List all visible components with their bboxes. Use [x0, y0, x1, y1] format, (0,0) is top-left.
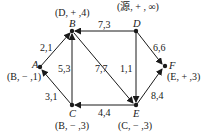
node-f-dot: [163, 64, 167, 68]
node-e-dot: [134, 103, 138, 107]
edge-weight-c-b: 5,3: [58, 64, 71, 74]
node-a-label: (B, − ,1): [7, 72, 41, 82]
node-f-label: (E, + ,3): [167, 72, 200, 82]
node-c-name: C: [69, 109, 76, 120]
edge-weight-d-e: 1,1: [120, 64, 133, 74]
node-a-name: A: [32, 60, 38, 71]
node-d-label: (源, + , ∞): [117, 2, 159, 12]
edge-weight-e-f: 8,4: [151, 91, 164, 101]
node-b-label: (D, + ,4): [55, 8, 90, 18]
node-a-dot: [38, 65, 42, 69]
node-e-label: (C, − ,3): [118, 121, 152, 131]
node-c-label: (B, − ,3): [55, 121, 89, 131]
edge-weight-a-b: 2,1: [40, 43, 53, 53]
edge-weight-e-c: 4,4: [98, 108, 111, 118]
node-c-dot: [70, 103, 74, 107]
edge-weight-d-b: 7,3: [98, 20, 111, 30]
edge-weight-c-a: 3,1: [45, 92, 58, 102]
flow-network-diagram: A B C D E F (B, − ,1) (D, + ,4) (B, − ,3…: [0, 0, 202, 134]
edge-weight-d-f: 6,6: [153, 43, 166, 53]
edge-weight-b-e: 7,7: [95, 64, 108, 74]
node-d-name: D: [133, 19, 141, 30]
node-e-name: E: [133, 109, 139, 120]
node-b-name: B: [69, 19, 75, 30]
node-f-name: F: [169, 61, 175, 72]
